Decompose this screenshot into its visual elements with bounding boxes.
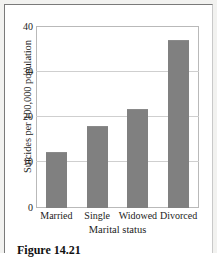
x-axis-title: Marital status [36,224,199,235]
y-tick-label-0: 0 [28,202,33,213]
x-tick-label-married: Married [36,210,76,221]
figure-bar-chart: Suicides per 100,000 population 40 30 20 [5,5,214,254]
y-axis-title: Suicides per 100,000 population [22,17,33,197]
bar-slot-divorced [159,27,199,208]
bar-divorced[interactable] [168,40,189,208]
figure-caption: Figure 14.21 [17,243,81,258]
bar-slot-single [77,27,117,208]
bar-widowed[interactable] [127,109,148,208]
x-axis-tick-labels: Married Single Widowed Divorced [36,210,199,221]
plot-area: 40 30 20 10 0 [36,26,199,208]
x-tick-label-single: Single [77,210,117,221]
y-tick-label-20: 20 [23,111,33,122]
bar-single[interactable] [87,126,108,208]
y-tick-label-10: 10 [23,156,33,167]
x-tick-label-widowed: Widowed [118,210,158,221]
page-sheet: Suicides per 100,000 population 40 30 20 [4,4,213,253]
bar-series [36,27,199,208]
bar-slot-widowed [118,27,158,208]
y-tick-label-30: 30 [23,66,33,77]
bar-married[interactable] [46,152,67,208]
bar-slot-married [36,27,76,208]
y-tick-label-40: 40 [23,21,33,32]
x-tick-label-divorced: Divorced [159,210,199,221]
